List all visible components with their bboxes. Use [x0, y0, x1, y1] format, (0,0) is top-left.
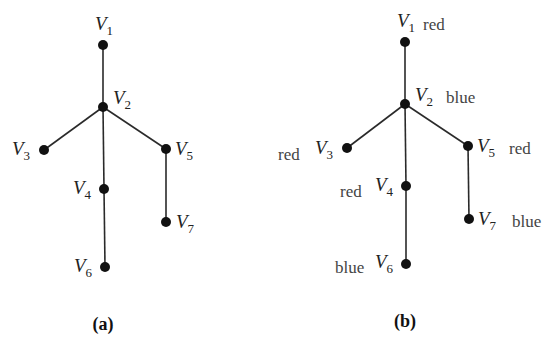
vertex-v7	[161, 217, 171, 227]
vertex-label-v3: V3	[12, 138, 30, 163]
vertex-v7	[464, 214, 474, 224]
edge-v2-v3	[44, 107, 103, 150]
caption-a: (a)	[93, 314, 114, 335]
vertex-label-v6: V6	[375, 251, 394, 276]
edge-v2-v4	[103, 107, 104, 189]
vertex-v2	[98, 102, 108, 112]
edge-v2-v5	[405, 104, 468, 146]
edge-v2-v4	[405, 104, 406, 186]
vertex-v4	[401, 181, 411, 191]
color-label-v1: red	[423, 15, 445, 34]
vertex-v4	[99, 184, 109, 194]
edge-v2-v5	[103, 107, 166, 149]
color-label-v4: red	[340, 182, 362, 201]
edge-v2-v3	[347, 104, 405, 148]
color-label-v7: blue	[512, 212, 541, 231]
vertex-v3	[39, 145, 49, 155]
vertex-v1	[98, 40, 108, 50]
vertex-label-v2: V2	[113, 87, 131, 112]
color-label-v5: red	[509, 139, 531, 158]
vertex-v6	[401, 259, 411, 269]
color-label-v3: red	[278, 145, 300, 164]
tree-b: V1 V2 V3 V4 V5 V6 V7 red blue red red re…	[278, 10, 541, 332]
vertex-label-v5: V5	[477, 135, 495, 160]
vertex-v1	[400, 37, 410, 47]
vertex-label-v7: V7	[478, 208, 497, 233]
vertex-v2	[400, 99, 410, 109]
vertex-label-v7: V7	[176, 211, 195, 236]
vertex-label-v5: V5	[175, 138, 193, 163]
edge-v5-v7	[468, 146, 469, 219]
vertex-label-v3: V3	[315, 137, 333, 162]
caption-b: (b)	[394, 311, 416, 332]
vertex-v5	[161, 144, 171, 154]
vertex-v6	[100, 262, 110, 272]
vertex-v3	[342, 143, 352, 153]
vertex-label-v2: V2	[415, 84, 433, 109]
tree-a: V1 V2 V3 V4 V5 V6 V7 (a)	[12, 13, 195, 335]
vertex-label-v4: V4	[375, 174, 394, 199]
vertex-v5	[463, 141, 473, 151]
edge-v4-v6	[104, 189, 105, 267]
vertex-label-v1: V1	[397, 10, 415, 35]
vertex-label-v4: V4	[73, 177, 92, 202]
vertex-label-v1: V1	[95, 13, 113, 38]
tree-coloring-diagram: V1 V2 V3 V4 V5 V6 V7 (a) V1 V2 V3 V4 V5 …	[0, 0, 559, 347]
color-label-v2: blue	[446, 88, 475, 107]
vertex-label-v6: V6	[74, 255, 93, 280]
color-label-v6: blue	[335, 258, 364, 277]
